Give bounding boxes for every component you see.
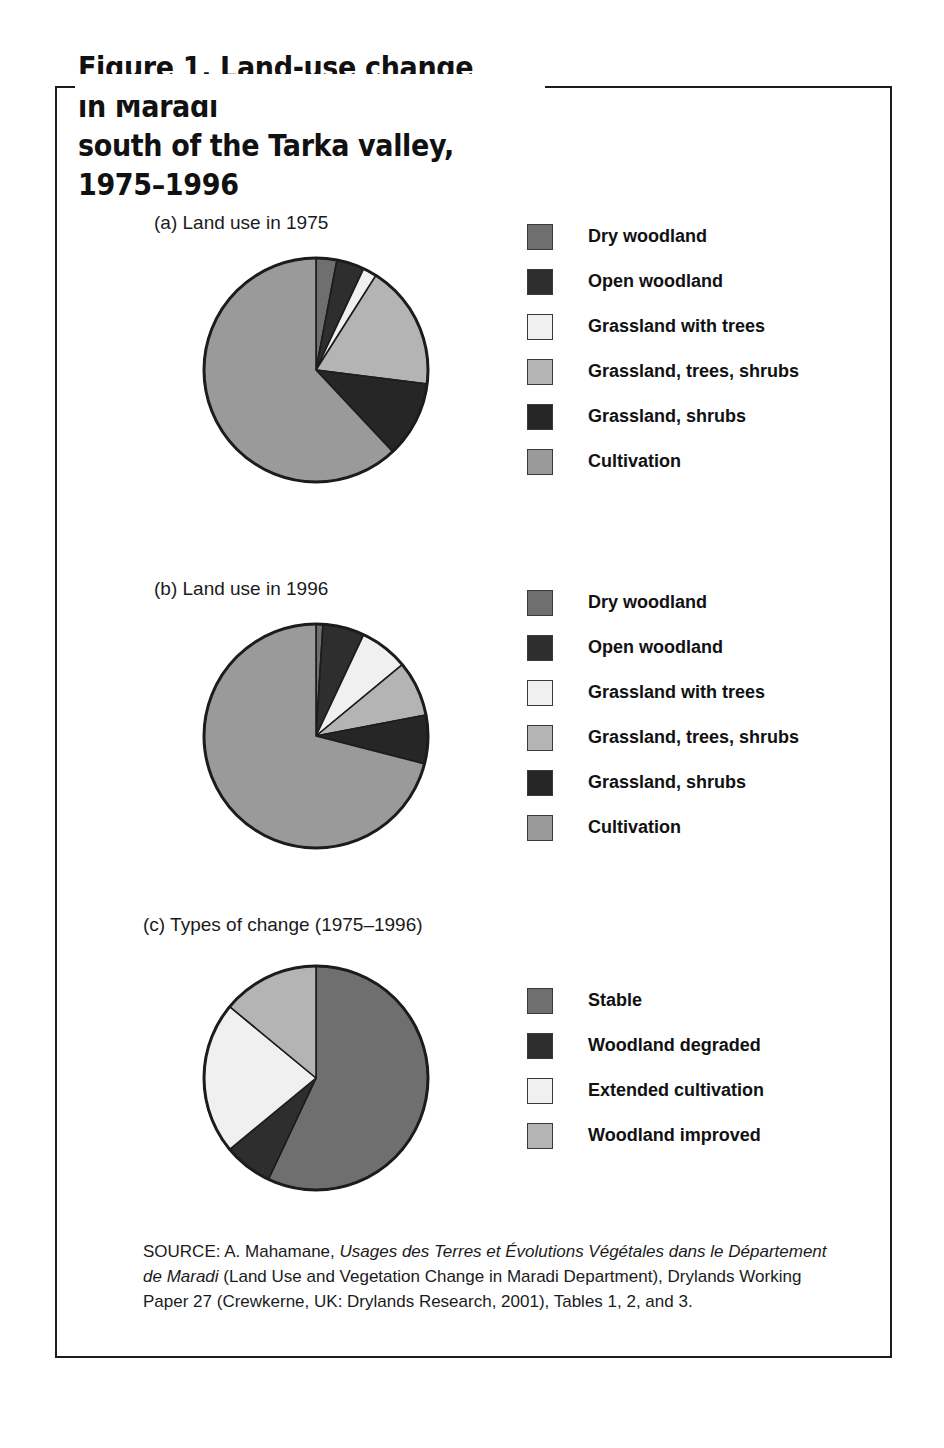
pie-svg-c [200,962,432,1194]
legend-swatch [527,1123,553,1149]
legend-row: Cultivation [527,439,799,484]
legend-label: Grassland, shrubs [588,406,746,427]
legend-b: Dry woodlandOpen woodlandGrassland with … [527,580,799,850]
legend-row: Open woodland [527,625,799,670]
legend-row: Extended cultivation [527,1068,764,1113]
legend-swatch [527,1033,553,1059]
legend-label: Cultivation [588,817,681,838]
legend-swatch [527,815,553,841]
legend-row: Grassland, shrubs [527,394,799,439]
legend-row: Grassland, trees, shrubs [527,715,799,760]
legend-row: Cultivation [527,805,799,850]
legend-swatch [527,1078,553,1104]
chart-caption-b: (b) Land use in 1996 [154,578,328,600]
legend-swatch [527,680,553,706]
source-text: (Land Use and Vegetation Change in Marad… [143,1267,801,1311]
legend-swatch [527,314,553,340]
legend-label: Cultivation [588,451,681,472]
legend-swatch [527,449,553,475]
chart-caption-a: (a) Land use in 1975 [154,212,328,234]
legend-row: Dry woodland [527,214,799,259]
legend-c: StableWoodland degradedExtended cultivat… [527,978,764,1158]
legend-swatch [527,359,553,385]
legend-swatch [527,224,553,250]
legend-label: Open woodland [588,271,723,292]
legend-label: Dry woodland [588,226,707,247]
figure-frame: (a) Land use in 1975 Dry woodlandOpen wo… [55,86,892,1358]
pie-chart-c [200,962,432,1194]
legend-row: Grassland, trees, shrubs [527,349,799,394]
legend-label: Extended cultivation [588,1080,764,1101]
legend-label: Woodland improved [588,1125,761,1146]
legend-row: Woodland degraded [527,1023,764,1068]
legend-row: Grassland with trees [527,304,799,349]
title-rule-break [75,74,545,100]
legend-label: Grassland, trees, shrubs [588,361,799,382]
legend-row: Dry woodland [527,580,799,625]
legend-label: Grassland, trees, shrubs [588,727,799,748]
legend-swatch [527,590,553,616]
pie-chart-b [200,620,432,852]
legend-label: Stable [588,990,642,1011]
legend-swatch [527,404,553,430]
legend-swatch [527,269,553,295]
pie-svg-a [200,254,432,486]
source-note: SOURCE: A. Mahamane, Usages des Terres e… [143,1239,843,1314]
legend-row: Woodland improved [527,1113,764,1158]
legend-label: Dry woodland [588,592,707,613]
legend-label: Open woodland [588,637,723,658]
legend-row: Grassland, shrubs [527,760,799,805]
legend-a: Dry woodlandOpen woodlandGrassland with … [527,214,799,484]
legend-row: Grassland with trees [527,670,799,715]
legend-swatch [527,635,553,661]
source-text: SOURCE: A. Mahamane, [143,1242,340,1261]
pie-svg-b [200,620,432,852]
chart-caption-c: (c) Types of change (1975–1996) [143,914,423,936]
pie-chart-a [200,254,432,486]
legend-label: Woodland degraded [588,1035,761,1056]
legend-label: Grassland with trees [588,316,765,337]
legend-row: Open woodland [527,259,799,304]
legend-swatch [527,988,553,1014]
legend-swatch [527,770,553,796]
legend-row: Stable [527,978,764,1023]
legend-label: Grassland, shrubs [588,772,746,793]
legend-label: Grassland with trees [588,682,765,703]
legend-swatch [527,725,553,751]
